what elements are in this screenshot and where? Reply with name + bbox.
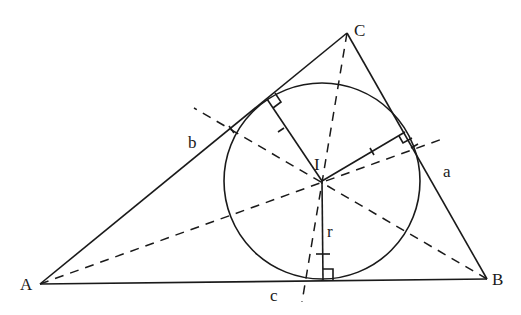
side-label-c: c (270, 286, 278, 305)
incircle-diagram: A B C I r a b c (0, 0, 521, 315)
radius-to-AB (322, 181, 323, 280)
side-c-AB (40, 279, 487, 284)
diagram-svg: A B C I r a b c (0, 0, 521, 315)
vertex-label-A: A (20, 275, 33, 294)
vertex-label-C: C (354, 21, 365, 40)
side-b-AC (40, 33, 347, 284)
bisector-B (194, 108, 487, 279)
inradius-label: r (327, 222, 333, 241)
incenter-label: I (314, 155, 320, 174)
bisector-C (302, 33, 347, 302)
tick-radius-AC (278, 128, 284, 132)
side-label-a: a (443, 162, 451, 181)
side-label-b: b (188, 133, 197, 152)
vertex-label-B: B (492, 270, 503, 289)
bisector-A (40, 138, 445, 284)
